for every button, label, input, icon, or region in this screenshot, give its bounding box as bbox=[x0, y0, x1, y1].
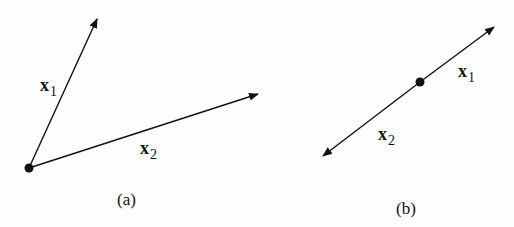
vector-diagram: x1 x2 (a) x1 x2 (b) bbox=[0, 0, 514, 227]
vector-subscript: 2 bbox=[388, 133, 395, 148]
label-x2-a: x2 bbox=[140, 139, 157, 162]
vector-subscript: 1 bbox=[50, 84, 57, 99]
label-x1-a: x1 bbox=[40, 76, 57, 99]
vector-x1-arrow bbox=[420, 27, 494, 82]
vector-x2-arrow bbox=[323, 82, 420, 156]
caption-b: (b) bbox=[396, 200, 416, 217]
label-x2-b: x2 bbox=[378, 125, 395, 148]
vector-subscript: 1 bbox=[468, 70, 475, 85]
vector-symbol: x bbox=[458, 61, 467, 81]
vector-subscript: 2 bbox=[150, 147, 157, 162]
vector-symbol: x bbox=[140, 138, 149, 158]
panel-b-drawing bbox=[323, 27, 494, 156]
vector-symbol: x bbox=[40, 75, 49, 95]
caption-a: (a) bbox=[117, 191, 136, 208]
label-x1-b: x1 bbox=[458, 62, 475, 85]
diagram-drawing bbox=[0, 0, 514, 227]
origin-dot bbox=[416, 78, 425, 87]
origin-dot bbox=[25, 164, 34, 173]
vector-symbol: x bbox=[378, 124, 387, 144]
